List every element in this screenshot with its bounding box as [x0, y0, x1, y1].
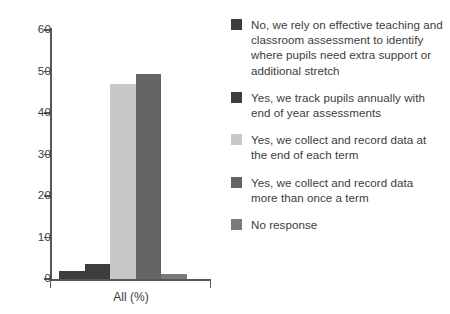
legend-swatch-icon — [231, 92, 242, 103]
y-axis-tick-label: 10 — [23, 232, 51, 244]
x-axis-line — [51, 279, 211, 281]
plot-area — [51, 30, 211, 279]
chart-figure: 0102030405060 All (%) No, we rely on eff… — [0, 0, 450, 314]
y-axis-tick-label: 20 — [23, 190, 51, 202]
legend-item[interactable]: Yes, we track pupils annually with end o… — [231, 90, 447, 120]
bar — [110, 84, 136, 279]
y-axis-tick-label: 0 — [23, 273, 51, 285]
legend-item-label: No, we rely on effective teaching and cl… — [251, 17, 443, 78]
x-axis-label: All (%) — [51, 290, 211, 304]
y-axis-tick-label: 40 — [23, 107, 51, 119]
bar — [136, 74, 162, 279]
legend-item[interactable]: No response — [231, 217, 447, 232]
y-axis-tick-label: 50 — [23, 66, 51, 78]
legend-swatch-icon — [231, 219, 242, 230]
legend-swatch-icon — [231, 19, 242, 30]
legend-item-label: Yes, we collect and record data more tha… — [251, 175, 443, 205]
legend-swatch-icon — [231, 134, 242, 145]
bar — [59, 271, 85, 279]
legend-swatch-icon — [231, 177, 242, 188]
legend-item-label: No response — [251, 217, 317, 232]
bar — [161, 274, 187, 279]
legend-item[interactable]: No, we rely on effective teaching and cl… — [231, 17, 447, 78]
y-axis-tick-label: 30 — [23, 149, 51, 161]
y-axis-tick-label: 60 — [23, 24, 51, 36]
legend-item-label: Yes, we track pupils annually with end o… — [251, 90, 443, 120]
bar-chart: 0102030405060 All (%) — [0, 0, 222, 314]
x-axis-tick-left — [50, 280, 51, 288]
legend-item[interactable]: Yes, we collect and record data more tha… — [231, 175, 447, 205]
legend-item[interactable]: Yes, we collect and record data at the e… — [231, 132, 447, 162]
chart-legend: No, we rely on effective teaching and cl… — [231, 17, 447, 244]
x-axis-tick-right — [210, 280, 211, 288]
legend-item-label: Yes, we collect and record data at the e… — [251, 132, 443, 162]
bar — [85, 264, 111, 279]
